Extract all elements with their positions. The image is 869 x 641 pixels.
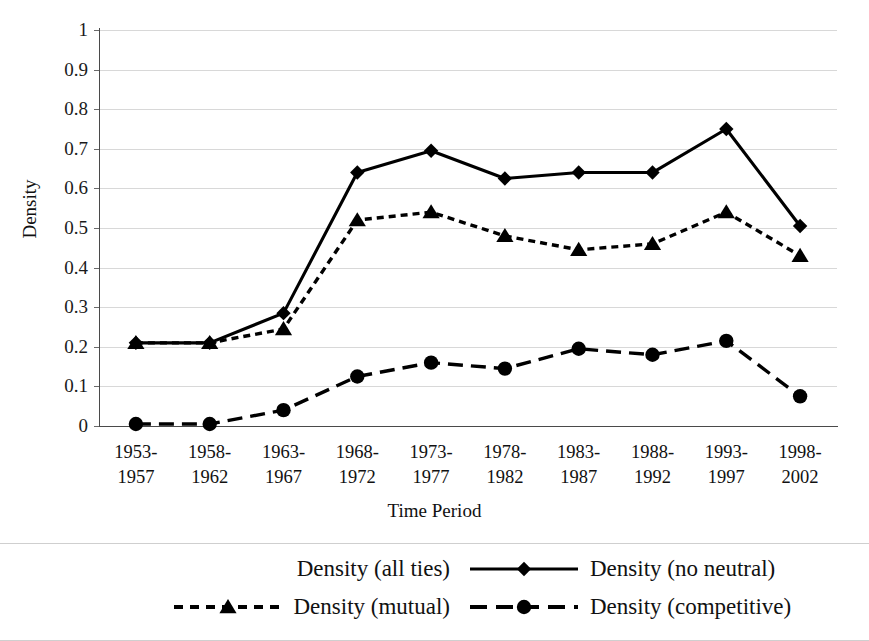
series-2: [127, 204, 808, 349]
data-point-circle: [498, 361, 512, 375]
data-point-circle: [793, 389, 807, 403]
chart-legend: Density (all ties)Density (mutual)Densit…: [0, 543, 869, 641]
legend-item[interactable]: Density (competitive): [466, 588, 858, 626]
legend-swatch: [173, 559, 289, 579]
data-point-circle: [276, 403, 290, 417]
data-point-circle: [572, 342, 586, 356]
legend-item[interactable]: Density (all ties): [58, 550, 450, 588]
legend-swatch: [170, 597, 286, 617]
legend-marker-diamond: [517, 562, 531, 576]
legend-marker-triangle: [219, 599, 236, 613]
data-point-triangle: [570, 242, 587, 256]
data-point-circle: [129, 417, 143, 431]
data-point-triangle: [792, 248, 809, 262]
data-point-triangle: [718, 204, 735, 218]
data-point-circle: [350, 369, 364, 383]
legend-sample-icon: [466, 597, 582, 617]
legend-sample-icon: [170, 597, 286, 617]
series-line: [136, 129, 800, 343]
data-point-circle: [719, 334, 733, 348]
legend-label: Density (competitive): [590, 594, 791, 620]
x-tick-label: 1998-2002: [763, 440, 837, 490]
x-tick-label: 1983-1987: [542, 440, 616, 490]
x-tick-label: 1973-1977: [394, 440, 468, 490]
x-tick-label: 1963-1967: [247, 440, 321, 490]
data-point-triangle: [275, 321, 292, 335]
data-point-circle: [424, 355, 438, 369]
legend-label: Density (mutual): [294, 594, 451, 620]
legend-sample-icon: [466, 559, 582, 579]
x-tick-label: 1968-1972: [320, 440, 394, 490]
legend-label: Density (no neutral): [590, 556, 775, 582]
x-tick-label: 1988-1992: [616, 440, 690, 490]
series-1: [129, 122, 808, 350]
data-point-circle: [203, 417, 217, 431]
plot-area: Density 10.90.80.70.60.50.40.30.20.10 19…: [0, 0, 869, 545]
series-line: [136, 212, 800, 343]
legend-marker-circle: [517, 600, 531, 614]
x-tick-label: 1958-1962: [173, 440, 247, 490]
x-axis-title: Time Period: [0, 500, 869, 522]
x-tick-label: 1953-1957: [99, 440, 173, 490]
legend-item[interactable]: Density (no neutral): [466, 550, 858, 588]
legend-label: Density (all ties): [297, 556, 450, 582]
data-point-diamond: [424, 144, 438, 158]
data-point-circle: [645, 348, 659, 362]
chart-figure: Density 10.90.80.70.60.50.40.30.20.10 19…: [0, 0, 869, 641]
data-point-diamond: [498, 171, 512, 185]
data-point-diamond: [645, 165, 659, 179]
legend-item[interactable]: Density (mutual): [58, 588, 450, 626]
data-point-diamond: [572, 165, 586, 179]
legend-swatch: [466, 559, 582, 579]
legend-swatch: [466, 597, 582, 617]
x-tick-label: 1978-1982: [468, 440, 542, 490]
series-line: [136, 341, 800, 424]
data-point-triangle: [349, 212, 366, 226]
x-tick-label: 1993-1997: [689, 440, 763, 490]
data-point-triangle: [644, 236, 661, 250]
data-point-diamond: [276, 306, 290, 320]
data-point-diamond: [350, 165, 364, 179]
series-3: [129, 334, 808, 432]
